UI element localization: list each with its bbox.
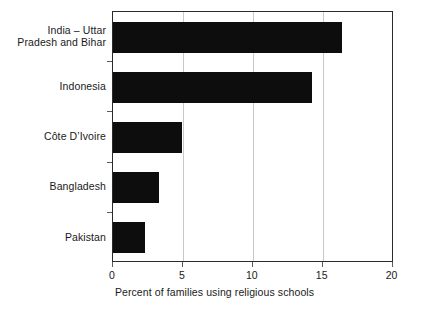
x-axis-tick (322, 262, 323, 267)
y-axis-tick (107, 212, 112, 213)
bar (113, 222, 145, 253)
x-axis-tick-label: 10 (232, 269, 272, 282)
x-axis-tick (392, 262, 393, 267)
y-axis-label: Indonesia (60, 80, 106, 93)
bar (113, 22, 342, 53)
x-axis-title: Percent of families using religious scho… (0, 286, 429, 298)
bar (113, 72, 312, 103)
y-axis-label: Bangladesh (50, 180, 106, 193)
y-axis-tick (107, 61, 112, 62)
x-axis-tick (182, 262, 183, 267)
x-axis-tick (112, 262, 113, 267)
y-axis-label: India – Uttar Pradesh and Bihar (17, 24, 106, 49)
y-axis-tick (107, 111, 112, 112)
x-axis-tick-label: 20 (372, 269, 412, 282)
y-axis-tick (107, 162, 112, 163)
y-axis-label: Côte D’Ivoire (44, 130, 106, 143)
y-axis-label: Pakistan (65, 231, 106, 244)
bar-chart: India – Uttar Pradesh and BiharIndonesia… (0, 0, 429, 309)
x-axis-tick (252, 262, 253, 267)
x-axis-tick-label: 0 (92, 269, 132, 282)
plot-area (112, 11, 393, 262)
x-axis-tick-label: 15 (302, 269, 342, 282)
x-axis-tick-label: 5 (162, 269, 202, 282)
bar (113, 122, 182, 153)
bar (113, 172, 159, 203)
